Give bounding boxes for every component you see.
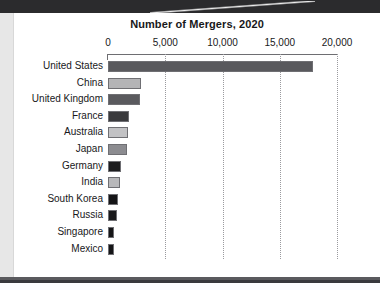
category-label: Russia bbox=[72, 208, 103, 222]
bar bbox=[108, 78, 141, 89]
x-axis-origin-tick bbox=[107, 54, 108, 60]
bar bbox=[108, 227, 114, 238]
bar-row: Singapore bbox=[108, 227, 337, 243]
category-label: China bbox=[77, 76, 103, 90]
screenshot-root: Number of Mergers, 2020 05,00010,00015,0… bbox=[0, 0, 380, 283]
bar-row: Mexico bbox=[108, 244, 337, 260]
bar-row: United States bbox=[108, 61, 337, 77]
category-label: France bbox=[72, 109, 103, 123]
scan-streak bbox=[150, 1, 315, 13]
gridline bbox=[337, 54, 339, 259]
bar bbox=[108, 210, 117, 221]
bar-row: India bbox=[108, 177, 337, 193]
bar bbox=[108, 61, 313, 72]
x-tick-label: 0 bbox=[105, 37, 111, 48]
page-canvas: Number of Mergers, 2020 05,00010,00015,0… bbox=[14, 13, 380, 277]
bar bbox=[108, 127, 128, 138]
bar bbox=[108, 144, 127, 155]
chart-title: Number of Mergers, 2020 bbox=[14, 18, 380, 30]
category-label: United States bbox=[43, 59, 103, 73]
bar bbox=[108, 94, 140, 105]
category-label: Germany bbox=[62, 159, 103, 173]
bar-row: Russia bbox=[108, 210, 337, 226]
bar-row: Germany bbox=[108, 161, 337, 177]
top-scan-band bbox=[0, 0, 380, 13]
category-label: Singapore bbox=[57, 225, 103, 239]
bar-row: United Kingdom bbox=[108, 94, 337, 110]
x-tick-label: 15,000 bbox=[264, 37, 295, 48]
category-label: South Korea bbox=[47, 192, 103, 206]
bar-chart-plot-area: 05,00010,00015,00020,000 United StatesCh… bbox=[108, 54, 337, 265]
x-tick-label: 20,000 bbox=[322, 37, 353, 48]
category-label: India bbox=[81, 175, 103, 189]
bar bbox=[108, 161, 121, 172]
bar-row: China bbox=[108, 78, 337, 94]
bar bbox=[108, 194, 118, 205]
page-gutter-left bbox=[0, 13, 13, 277]
bar bbox=[108, 244, 114, 255]
bar-row: France bbox=[108, 111, 337, 127]
x-tick-label: 5,000 bbox=[153, 37, 178, 48]
bar-row: Japan bbox=[108, 144, 337, 160]
bar-row: South Korea bbox=[108, 194, 337, 210]
bar bbox=[108, 177, 120, 188]
category-label: Mexico bbox=[71, 242, 103, 256]
bar-row: Australia bbox=[108, 127, 337, 143]
x-tick-label: 10,000 bbox=[207, 37, 238, 48]
category-label: Japan bbox=[76, 142, 103, 156]
category-label: Australia bbox=[64, 125, 103, 139]
category-label: United Kingdom bbox=[32, 92, 103, 106]
bar bbox=[108, 111, 129, 122]
